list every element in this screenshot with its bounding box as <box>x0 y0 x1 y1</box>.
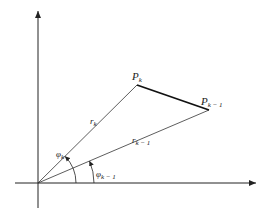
segment-pk-pk-minus-1 <box>137 85 209 110</box>
label-r-k-minus-1: rk − 1 <box>132 135 150 147</box>
radius-r-k <box>38 85 137 183</box>
radius-r-k-minus-1 <box>38 110 209 183</box>
label-phi-k: φk <box>56 149 65 161</box>
polar-diagram: Pk Pk − 1 rk rk − 1 φk φk − 1 <box>0 0 268 217</box>
label-p-k: Pk <box>131 70 143 84</box>
angle-arc-phi-k <box>65 156 76 183</box>
label-phi-k-minus-1: φk − 1 <box>96 169 116 181</box>
angle-arc-phi-k-minus-1 <box>90 161 95 183</box>
label-r-k: rk <box>90 116 98 128</box>
label-p-k-minus-1: Pk − 1 <box>200 95 223 109</box>
